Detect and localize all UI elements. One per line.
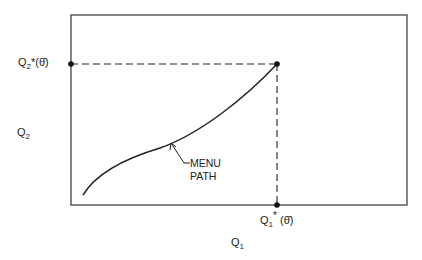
menu-path-label: MENUPATH (190, 157, 221, 183)
y-axis-label: Q2 (17, 126, 30, 141)
x-point-label: Q1* (θ̄) (260, 210, 293, 229)
menu-path-curve (83, 64, 277, 195)
optimum-point-dot (274, 61, 280, 67)
y-point-label: Q2*(θ̄) (18, 56, 49, 71)
plot-frame (71, 15, 407, 205)
x-axis-label: Q1 (231, 236, 244, 251)
diagram-canvas (0, 0, 422, 260)
annotation-leader (171, 143, 190, 163)
y-point-dot (68, 61, 74, 67)
x-point-dot (274, 202, 280, 208)
